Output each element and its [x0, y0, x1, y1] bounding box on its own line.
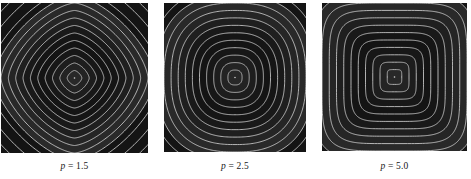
panel-caption-p-2-5: p = 2.5	[164, 160, 306, 172]
caption-equation: = 1.5	[65, 161, 88, 171]
contour-panel-p-5-0	[322, 3, 467, 151]
contour-plot-p-5-0	[322, 3, 467, 151]
contour-plot-p-2-5	[164, 3, 306, 152]
figure-container: p = 1.5 p = 2.5 p = 5.0	[0, 0, 471, 179]
contour-plot-p-1-5	[1, 3, 148, 153]
caption-equation: = 2.5	[226, 161, 249, 171]
contour-panel-p-2-5	[164, 3, 306, 152]
panel-caption-p-5-0: p = 5.0	[322, 160, 467, 172]
contour-panel-p-1-5	[1, 3, 148, 153]
panel-caption-p-1-5: p = 1.5	[1, 160, 148, 172]
caption-equation: = 5.0	[385, 161, 408, 171]
